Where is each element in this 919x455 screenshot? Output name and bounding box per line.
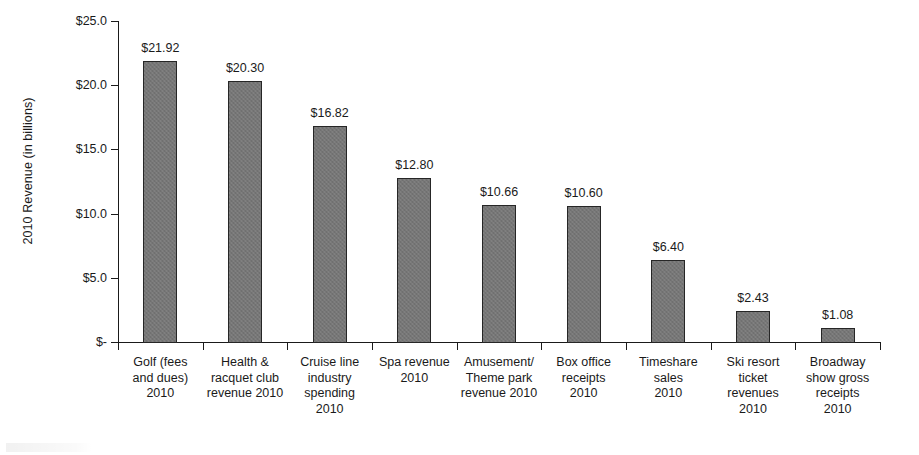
category-label-line: Box office (538, 355, 630, 371)
y-tick-label: $5.0 (83, 271, 107, 285)
category-label-line: Golf (fees (114, 355, 206, 371)
bar-value-label: $2.43 (737, 291, 768, 305)
y-tick-mark (111, 85, 118, 86)
bar (651, 260, 685, 343)
x-tick-mark (203, 342, 204, 350)
category-label-line: 2010 (368, 371, 460, 387)
bar-value-label: $21.92 (141, 41, 179, 55)
page-scan-artifact (6, 443, 126, 452)
bar (567, 206, 601, 343)
category-label-line: receipts (792, 386, 884, 402)
x-tick-mark (287, 342, 288, 350)
bar (228, 81, 262, 343)
x-axis-category-label: Cruise lineindustryspending2010 (284, 355, 376, 417)
x-tick-mark (711, 342, 712, 350)
bar-value-label: $6.40 (653, 240, 684, 254)
category-label-line: 2010 (538, 386, 630, 402)
bar-value-label: $16.82 (311, 106, 349, 120)
category-label-line: and dues) (114, 371, 206, 387)
x-axis-category-label: Broadwayshow grossreceipts2010 (792, 355, 884, 417)
category-label-line: Ski resort (707, 355, 799, 371)
bar-chart: 2010 Revenue (in billions) $25.0$20.0$15… (0, 0, 919, 455)
y-tick-label: $20.0 (76, 78, 107, 92)
y-tick-mark (111, 342, 118, 343)
bar (736, 311, 770, 343)
bar-value-label: $1.08 (822, 308, 853, 322)
x-axis-category-label: Amusement/Theme parkrevenue 2010 (453, 355, 545, 402)
category-label-line: Amusement/ (453, 355, 545, 371)
y-tick-label: $15.0 (76, 142, 107, 156)
x-tick-mark (118, 342, 119, 350)
x-tick-mark (372, 342, 373, 350)
category-label-line: Timeshare (622, 355, 714, 371)
x-axis-category-label: Health &racquet clubrevenue 2010 (199, 355, 291, 402)
x-axis-category-label: Spa revenue2010 (368, 355, 460, 386)
x-tick-mark (880, 342, 881, 350)
y-tick-label: $25.0 (76, 14, 107, 28)
x-tick-mark (541, 342, 542, 350)
y-tick-mark (111, 149, 118, 150)
x-axis-category-label: Golf (feesand dues)2010 (114, 355, 206, 402)
bar (313, 126, 347, 343)
x-axis-category-label: Box officereceipts2010 (538, 355, 630, 402)
y-tick-label: $10.0 (76, 207, 107, 221)
y-tick-mark (111, 278, 118, 279)
bar (397, 178, 431, 343)
category-label-line: ticket (707, 371, 799, 387)
category-label-line: spending (284, 386, 376, 402)
y-axis-title-label: 2010 Revenue (in billions) (21, 97, 35, 244)
category-label-line: Theme park (453, 371, 545, 387)
category-label-line: Cruise line (284, 355, 376, 371)
category-label-line: Broadway (792, 355, 884, 371)
category-label-line: revenue 2010 (199, 386, 291, 402)
plot-area: $25.0$20.0$15.0$10.0$5.0$- $21.92$20.30$… (118, 21, 880, 342)
bar (821, 328, 855, 343)
y-tick-mark (111, 214, 118, 215)
x-tick-mark (626, 342, 627, 350)
category-label-line: racquet club (199, 371, 291, 387)
category-label-line: revenue 2010 (453, 386, 545, 402)
x-tick-mark (795, 342, 796, 350)
category-label-line: show gross (792, 371, 884, 387)
category-label-line: 2010 (622, 386, 714, 402)
category-label-line: 2010 (792, 402, 884, 418)
bar-value-label: $20.30 (226, 61, 264, 75)
category-label-line: receipts (538, 371, 630, 387)
category-label-line: industry (284, 371, 376, 387)
category-label-line: 2010 (707, 402, 799, 418)
category-label-line: Health & (199, 355, 291, 371)
category-label-line: 2010 (284, 402, 376, 418)
bar-value-label: $12.80 (395, 158, 433, 172)
bar (482, 205, 516, 343)
x-axis-category-label: Timesharesales2010 (622, 355, 714, 402)
y-axis-title: 2010 Revenue (in billions) (0, 0, 56, 342)
category-label-line: 2010 (114, 386, 206, 402)
bar-value-label: $10.60 (565, 186, 603, 200)
category-label-line: revenues (707, 386, 799, 402)
category-label-line: sales (622, 371, 714, 387)
y-tick-label: $- (96, 335, 107, 349)
x-tick-mark (457, 342, 458, 350)
bar (143, 61, 177, 343)
category-label-line: Spa revenue (368, 355, 460, 371)
bar-value-label: $10.66 (480, 185, 518, 199)
y-tick-mark (111, 21, 118, 22)
x-axis-category-label: Ski resortticketrevenues2010 (707, 355, 799, 417)
